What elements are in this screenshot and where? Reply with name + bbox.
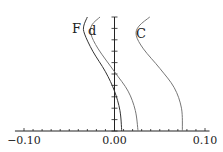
curve-label-C: C bbox=[136, 26, 146, 41]
chart: −0.100.000.10 FdC bbox=[0, 0, 223, 152]
curves bbox=[83, 17, 182, 131]
x-tick-label: 0.00 bbox=[102, 134, 127, 147]
curve-label-d: d bbox=[88, 23, 96, 38]
labels: FdC bbox=[72, 21, 146, 41]
x-tick-label: −0.10 bbox=[7, 134, 41, 147]
curve-label-F: F bbox=[72, 21, 81, 36]
x-tick-label: 0.10 bbox=[193, 134, 218, 147]
